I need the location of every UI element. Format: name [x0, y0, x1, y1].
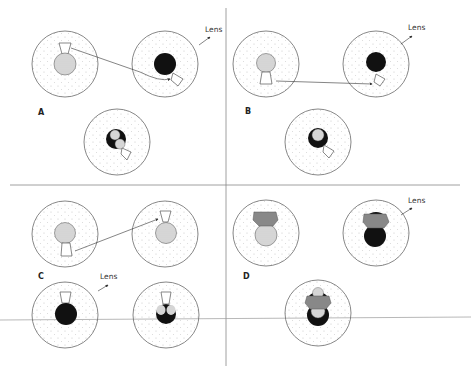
eye-b2 — [343, 31, 409, 97]
panel-a — [32, 31, 210, 175]
eye-c4 — [133, 282, 199, 348]
eye-d1 — [233, 200, 299, 266]
lens-pointer-a — [199, 37, 210, 45]
lens-pointer-d — [401, 208, 412, 215]
lens-label-a: Lens — [205, 25, 222, 34]
eye-c1 — [32, 201, 98, 267]
diagram-canvas — [0, 0, 471, 379]
eye-d2 — [343, 200, 409, 266]
eye-b1 — [233, 31, 299, 97]
panel-d — [233, 200, 412, 346]
eye-b3 — [285, 109, 351, 175]
eye-d3 — [285, 280, 351, 346]
panel-label-c: C — [38, 272, 44, 281]
panel-label-a: A — [38, 108, 44, 117]
lens-label-d: Lens — [408, 196, 425, 205]
eye-a2 — [132, 31, 198, 97]
eye-c2 — [132, 201, 198, 267]
panel-label-d: D — [243, 272, 250, 281]
eye-c3 — [32, 282, 98, 348]
lens-pointer-b — [401, 36, 412, 44]
eye-a3 — [84, 109, 150, 175]
panel-b — [233, 31, 412, 175]
eye-a1 — [32, 31, 98, 97]
panel-label-b: B — [245, 107, 251, 116]
lens-label-b: Lens — [408, 23, 425, 32]
lens-pointer-c — [98, 285, 108, 291]
lens-label-c: Lens — [100, 272, 117, 281]
